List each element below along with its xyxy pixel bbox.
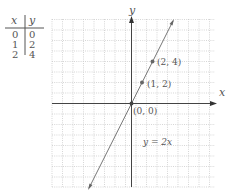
point-label-1-2: (1, 2) xyxy=(147,79,171,89)
table-cell: 2 xyxy=(12,49,18,60)
x-axis-label: x xyxy=(219,86,226,99)
xy-table: x y 0 0 1 2 2 4 xyxy=(5,14,44,60)
point-2-4 xyxy=(151,60,155,64)
y-axis-label: y xyxy=(128,4,136,17)
table-header-x: x xyxy=(11,14,18,27)
point-origin xyxy=(130,102,134,106)
table-cell: 4 xyxy=(29,49,35,60)
point-1-2 xyxy=(140,81,144,85)
point-label-2-4: (2, 4) xyxy=(157,57,181,67)
graph-diagram: y x (0, 0) (1, 2) (2, 4) y = 2x x y 0 0 … xyxy=(0,0,227,194)
equation-label: y = 2x xyxy=(142,137,172,147)
table-header-y: y xyxy=(28,14,36,27)
x-axis-arrow-icon xyxy=(210,101,217,106)
point-label-origin: (0, 0) xyxy=(133,106,157,116)
line-arrow-up-icon xyxy=(170,19,175,26)
